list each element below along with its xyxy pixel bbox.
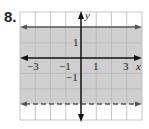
x-tick--3: −3 (27, 60, 39, 72)
y-tick-1: 1 (73, 36, 79, 48)
y-axis-label: y (84, 9, 90, 21)
x-tick-3: 3 (123, 60, 129, 72)
x-tick-1: 1 (93, 60, 99, 72)
inequality-graph: y x −3 −1 1 3 1 −1 (0, 0, 149, 129)
x-axis-label: x (135, 60, 141, 72)
y-tick--1: −1 (66, 71, 78, 83)
